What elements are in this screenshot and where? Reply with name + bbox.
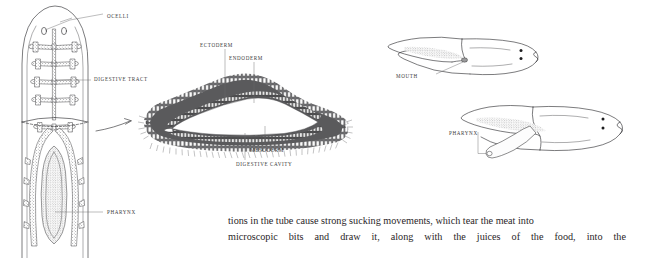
label-digestive-tract: DIGESTIVE TRACT <box>94 76 148 82</box>
word: the <box>613 229 625 245</box>
pharynx-region-lower <box>476 117 546 131</box>
eyespot-upper-1 <box>520 49 523 52</box>
word: draw <box>340 229 360 245</box>
digestive-tract-branches <box>29 29 82 132</box>
word: the <box>531 229 543 245</box>
body-text-block: tions in the tube cause strong sucking m… <box>228 213 632 246</box>
word: juices <box>477 229 501 245</box>
word: along <box>391 229 414 245</box>
figure-page: OCELLI DIGESTIVE TRACT PHARYNX <box>0 0 648 258</box>
eyespot-lower-2 <box>602 127 605 130</box>
word: and <box>314 229 329 245</box>
word: it, <box>372 229 380 245</box>
body-text-line-2: microscopic bits and draw it, along with… <box>228 229 626 245</box>
pharynx-region-upper <box>404 47 464 59</box>
word: the <box>453 229 465 245</box>
panel-whole-animal: OCELLI DIGESTIVE TRACT PHARYNX <box>22 6 148 258</box>
panel-cross-section: ECTODERM ENDODERM MESODERM DIGESTIVE CAV… <box>138 42 353 167</box>
mouth-opening-upper <box>462 58 468 62</box>
eyespot-lower-1 <box>602 118 605 121</box>
word: bits <box>289 229 304 245</box>
pharynx-organ <box>41 146 67 244</box>
label-ocelli: OCELLI <box>107 13 129 19</box>
magnification-arrow <box>96 119 132 131</box>
label-mouth: MOUTH <box>396 73 418 79</box>
label-endoderm: ENDODERM <box>229 55 263 61</box>
word: with <box>424 229 442 245</box>
label-pharynx-side: PHARYNX <box>449 130 478 136</box>
label-digestive-cavity: DIGESTIVE CAVITY <box>236 161 292 167</box>
side-view-lower-worm <box>461 106 622 159</box>
eyespot-upper-2 <box>520 57 523 60</box>
extruded-pharynx-tube <box>486 126 536 158</box>
panel-side-views: MOUTH PHARYNX <box>388 37 623 158</box>
body-text-line-1: tions in the tube cause strong sucking m… <box>228 213 632 229</box>
pharynx-tip-opening <box>487 151 492 155</box>
side-view-upper-worm <box>388 37 538 74</box>
label-ectoderm: ECTODERM <box>200 42 233 48</box>
word: food, <box>554 229 575 245</box>
label-mesoderm: MESODERM <box>250 147 284 153</box>
word: microscopic <box>228 229 278 245</box>
word: into <box>587 229 603 245</box>
word: of <box>512 229 521 245</box>
label-pharynx-dorsal: PHARYNX <box>107 209 136 215</box>
leader-lines-panel3 <box>436 62 486 154</box>
